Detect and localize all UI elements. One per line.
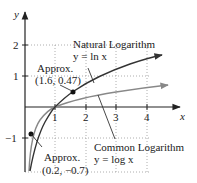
y-axis-label: y	[13, 8, 19, 20]
y-tick-neg1: −1	[5, 132, 17, 144]
x-tick-3: 3	[113, 111, 119, 123]
annotation-2-line2: (0.2, −0.7)	[42, 164, 89, 177]
x-tick-4: 4	[144, 111, 150, 123]
x-tick-1: 1	[52, 111, 58, 123]
x-tick-2: 2	[83, 111, 89, 123]
x-axis-label: x	[179, 110, 185, 122]
annotation-2-line1: Approx.	[44, 151, 81, 163]
common-log-label: Common Logarithm	[94, 141, 185, 153]
log-chart: y x 1 2 3 4 2 1 −1 Approx. (1.6, 0.47) A…	[0, 0, 197, 183]
annotation-1-line1: Approx.	[37, 62, 74, 74]
annotation-1-line2: (1.6, 0.47)	[35, 74, 81, 87]
natural-log-label: Natural Logarithm	[73, 38, 156, 50]
natural-log-equation: y = ln x	[73, 50, 108, 62]
y-tick-2: 2	[13, 39, 19, 51]
common-log-equation: y = log x	[94, 153, 134, 165]
y-tick-1: 1	[13, 70, 19, 82]
